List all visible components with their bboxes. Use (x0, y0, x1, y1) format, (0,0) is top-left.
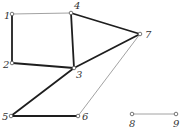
node-label-4: 4 (73, 0, 80, 11)
node-2 (10, 61, 14, 65)
graph-diagram: 123456789 (0, 0, 184, 139)
node-label-3: 3 (76, 69, 82, 80)
node-label-9: 9 (173, 118, 180, 129)
edge-4-3 (71, 13, 74, 68)
edge-1-4 (12, 13, 71, 14)
node-label-7: 7 (145, 29, 152, 40)
edge-2-3 (12, 63, 74, 68)
node-label-1: 1 (4, 10, 10, 21)
edge-4-7 (71, 13, 140, 34)
edge-3-5 (11, 68, 74, 116)
node-label-6: 6 (82, 111, 89, 122)
node-9 (174, 112, 178, 116)
node-8 (130, 112, 134, 116)
node-label-5: 5 (2, 111, 8, 122)
node-4 (69, 11, 73, 15)
node-label-2: 2 (2, 59, 9, 70)
node-label-8: 8 (129, 118, 135, 129)
node-7 (138, 32, 142, 36)
node-1 (10, 12, 14, 16)
edge-3-7 (74, 34, 140, 68)
node-6 (76, 114, 80, 118)
node-5 (9, 114, 13, 118)
edge-6-7 (78, 34, 140, 116)
